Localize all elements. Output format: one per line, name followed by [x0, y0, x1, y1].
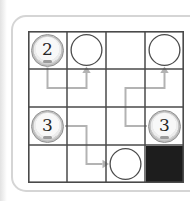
number-token[interactable]: 2 [31, 34, 64, 67]
number-token[interactable]: 3 [31, 110, 64, 143]
grid-cell-r3c0[interactable] [28, 145, 67, 183]
puzzle-board: 233 [28, 31, 184, 183]
grid-cell-r0c2[interactable] [106, 31, 145, 69]
token-label: 3 [159, 117, 170, 134]
token-base-mark [160, 136, 169, 139]
target-circle[interactable] [149, 35, 180, 66]
blocked-cell [146, 146, 184, 183]
target-circle[interactable] [71, 35, 102, 66]
token-label: 3 [42, 117, 53, 134]
page: 233 [0, 0, 190, 201]
puzzle-card: 233 [11, 15, 190, 192]
token-label: 2 [42, 41, 53, 58]
page-edge-shadow [0, 0, 7, 201]
token-base-mark [43, 136, 52, 139]
number-token[interactable]: 3 [148, 110, 181, 143]
target-circle[interactable] [110, 149, 141, 180]
token-base-mark [43, 60, 52, 63]
